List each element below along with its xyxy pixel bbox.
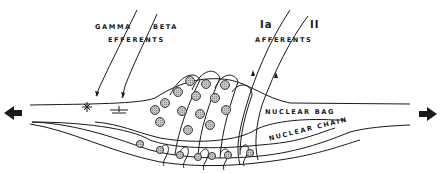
left-arrow-icon: [4, 106, 22, 120]
beta-motor-ending: [110, 106, 128, 113]
right-arrow-icon: [419, 107, 437, 121]
nuclear-bag-label: NUCLEAR BAG: [265, 108, 335, 116]
chain-coil: [200, 149, 208, 170]
gamma-direction-arrow: [95, 91, 99, 97]
ia-afferent-fiber: [238, 10, 290, 165]
muscle-spindle-diagram: GAMMA BETA EFFERENTS Ia II AFFERENTS NUC…: [0, 0, 441, 173]
beta-direction-arrow: [121, 92, 125, 98]
efferents-label: EFFERENTS: [108, 36, 165, 44]
nuclear-bag-upper-edge: [30, 79, 410, 105]
ii-label: II: [310, 19, 319, 30]
diagram-drawing: [0, 0, 441, 173]
bag-nuclei: [151, 77, 231, 135]
gamma-label: GAMMA: [95, 23, 132, 31]
beta-label: BETA: [153, 23, 178, 31]
ia-direction-arrow: [251, 70, 255, 76]
ia-label: Ia: [260, 19, 272, 30]
afferents-label: AFFERENTS: [255, 36, 312, 44]
